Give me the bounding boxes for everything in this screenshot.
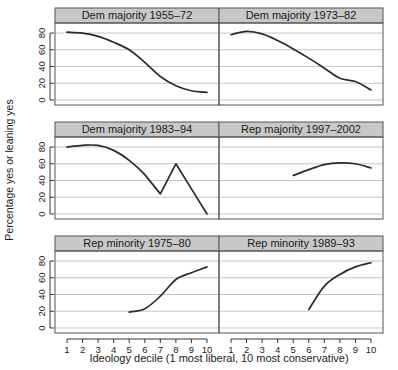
panel-strip-label-dem-majority-1983-94: Dem majority 1983–94 xyxy=(82,123,193,135)
y-tick-label-80: 80 xyxy=(36,256,47,267)
x-tick-label-9: 9 xyxy=(353,344,358,355)
y-tick-label-60: 60 xyxy=(36,272,47,283)
x-tick-label-2: 2 xyxy=(80,344,85,355)
x-tick-label-10: 10 xyxy=(202,344,213,355)
x-tick-label-7: 7 xyxy=(322,344,327,355)
x-tick-label-6: 6 xyxy=(142,344,147,355)
y-tick-label-0: 0 xyxy=(36,211,47,216)
x-tick-label-8: 8 xyxy=(173,344,178,355)
panel-strip-label-dem-majority-1973-82: Dem majority 1973–82 xyxy=(246,9,357,21)
x-tick-label-3: 3 xyxy=(259,344,264,355)
panel-strip-label-dem-majority-1955-72: Dem majority 1955–72 xyxy=(82,9,193,21)
x-tick-label-9: 9 xyxy=(189,344,194,355)
y-axis-title-text: Percentage yes or leaning yes xyxy=(3,99,15,240)
y-tick-label-20: 20 xyxy=(36,78,47,89)
y-tick-label-80: 80 xyxy=(36,28,47,39)
y-tick-label-20: 20 xyxy=(36,192,47,203)
y-tick-label-0: 0 xyxy=(36,325,47,330)
x-tick-label-6: 6 xyxy=(306,344,311,355)
x-tick-label-3: 3 xyxy=(95,344,100,355)
x-tick-label-7: 7 xyxy=(158,344,163,355)
y-tick-label-20: 20 xyxy=(36,306,47,317)
y-tick-label-40: 40 xyxy=(36,289,47,300)
trellis-chart-figure: Percentage yes or leaning yes Ideology d… xyxy=(0,0,398,370)
y-tick-label-60: 60 xyxy=(36,44,47,55)
x-tick-label-1: 1 xyxy=(228,344,233,355)
chart-background xyxy=(0,0,398,370)
chart-svg: Percentage yes or leaning yes Ideology d… xyxy=(0,0,398,370)
x-tick-label-2: 2 xyxy=(244,344,249,355)
y-tick-label-60: 60 xyxy=(36,158,47,169)
y-tick-label-40: 40 xyxy=(36,175,47,186)
panel-strip-label-rep-minority-1975-80: Rep minority 1975–80 xyxy=(83,237,191,249)
panel-strip-label-rep-minority-1989-93: Rep minority 1989–93 xyxy=(247,237,355,249)
x-tick-label-8: 8 xyxy=(337,344,342,355)
x-tick-label-1: 1 xyxy=(64,344,69,355)
x-tick-label-5: 5 xyxy=(127,344,132,355)
panel-strip-label-rep-majority-1997-2002: Rep majority 1997–2002 xyxy=(241,123,361,135)
x-tick-label-5: 5 xyxy=(291,344,296,355)
x-tick-label-10: 10 xyxy=(366,344,377,355)
y-axis-title: Percentage yes or leaning yes xyxy=(3,99,15,240)
y-tick-label-40: 40 xyxy=(36,61,47,72)
x-tick-label-4: 4 xyxy=(111,344,116,355)
x-tick-label-4: 4 xyxy=(275,344,280,355)
y-tick-label-80: 80 xyxy=(36,142,47,153)
y-tick-label-0: 0 xyxy=(36,97,47,102)
